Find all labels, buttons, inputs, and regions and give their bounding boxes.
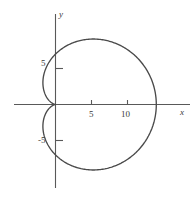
x-tick-label-5: 5 bbox=[89, 110, 94, 119]
y-tick-label-neg5: -5 bbox=[38, 136, 46, 145]
plot-canvas bbox=[0, 0, 194, 198]
y-axis-label: y bbox=[59, 10, 63, 19]
cardioid-figure: 5 10 5 -5 x y bbox=[0, 0, 194, 198]
x-tick-label-10: 10 bbox=[121, 110, 130, 119]
x-axis-label: x bbox=[180, 108, 184, 117]
y-tick-label-5: 5 bbox=[41, 59, 46, 68]
